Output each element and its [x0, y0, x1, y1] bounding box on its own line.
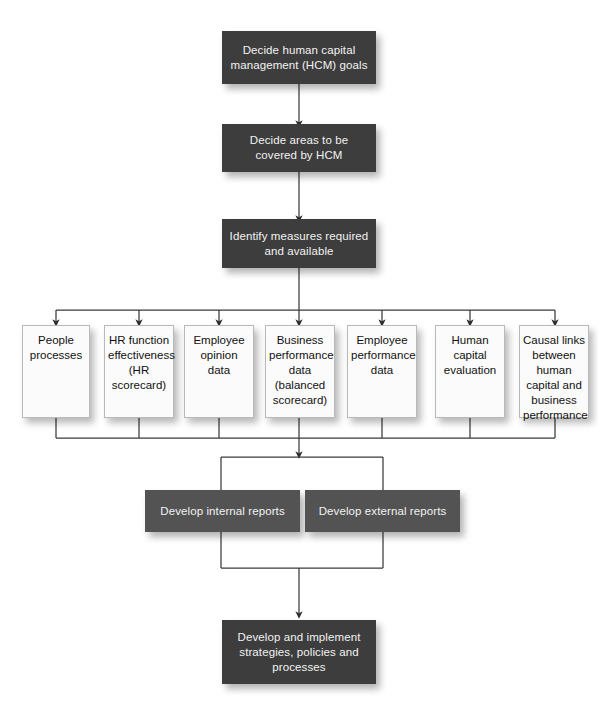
- node-label: Causal links between human capital and b…: [520, 333, 588, 423]
- node-identify-measures[interactable]: Identify measures required and available: [222, 219, 376, 268]
- node-decide-goals[interactable]: Decide human capital management (HCM) go…: [222, 31, 376, 84]
- node-label: Develop and implement strategies, polici…: [222, 630, 376, 675]
- node-label: Business performance data (balanced scor…: [266, 333, 334, 408]
- node-develop-implement[interactable]: Develop and implement strategies, polici…: [222, 620, 376, 684]
- node-decide-areas[interactable]: Decide areas to be covered by HCM: [222, 124, 376, 172]
- node-label: Human capital evaluation: [436, 333, 504, 378]
- node-internal-reports[interactable]: Develop internal reports: [145, 490, 300, 532]
- node-human-capital-evaluation[interactable]: Human capital evaluation: [435, 325, 505, 418]
- node-hr-function-effectiveness[interactable]: HR function effectiveness (HR scorecard): [104, 325, 174, 418]
- node-label: Develop external reports: [305, 504, 460, 519]
- node-label: HR function effectiveness (HR scorecard): [105, 333, 173, 393]
- node-employee-opinion-data[interactable]: Employee opinion data: [184, 325, 254, 418]
- node-causal-links[interactable]: Causal links between human capital and b…: [519, 325, 589, 418]
- node-label: Identify measures required and available: [222, 229, 376, 259]
- node-label: Decide human capital management (HCM) go…: [222, 43, 376, 73]
- node-people-processes[interactable]: People processes: [22, 325, 90, 418]
- node-label: Employee opinion data: [185, 333, 253, 378]
- node-employee-performance-data[interactable]: Employee performance data: [347, 325, 417, 418]
- node-label: Develop internal reports: [145, 504, 300, 519]
- node-label: Employee performance data: [348, 333, 416, 378]
- node-label: Decide areas to be covered by HCM: [222, 133, 376, 163]
- flowchart-canvas: Decide human capital management (HCM) go…: [0, 0, 598, 711]
- node-label: People processes: [23, 333, 89, 363]
- node-business-performance-data[interactable]: Business performance data (balanced scor…: [265, 325, 335, 418]
- node-external-reports[interactable]: Develop external reports: [305, 490, 460, 532]
